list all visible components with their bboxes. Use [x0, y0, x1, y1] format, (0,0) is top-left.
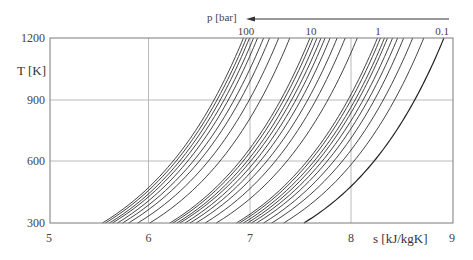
y-axis-title: T [K] [17, 63, 46, 78]
x-tick-6: 6 [146, 231, 152, 245]
isobar-curve [205, 38, 345, 223]
isobar-curve [180, 38, 321, 223]
x-tick-9: 9 [449, 231, 455, 245]
pressure-label-10: 10 [306, 25, 318, 37]
isobar-curve [243, 38, 384, 223]
y-tick-900: 900 [27, 93, 45, 107]
pressure-direction-arrow-icon [246, 17, 449, 22]
isobar-curve [150, 38, 290, 223]
x-tick-7: 7 [247, 231, 253, 245]
pressure-label-0-1: 0.1 [435, 25, 449, 37]
isobar-curve [252, 38, 393, 223]
y-tick-1200: 1200 [21, 31, 45, 45]
x-tick-8: 8 [348, 231, 354, 245]
isobar-curve [112, 38, 253, 223]
ts-diagram: 1200 900 600 300 T [K] 5 6 7 8 9 s [kJ/k… [0, 0, 473, 260]
isobar-curve [109, 38, 249, 223]
isobar-curve [177, 38, 317, 223]
isobar-curves [102, 38, 444, 223]
y-tick-300: 300 [27, 216, 45, 230]
isobar-curve [247, 38, 387, 223]
pressure-label-100: 100 [238, 25, 255, 37]
x-tick-5: 5 [46, 231, 52, 245]
x-axis-title: s [kJ/kgK] [373, 231, 428, 246]
pressure-title: p [bar] [207, 11, 237, 23]
y-tick-600: 600 [27, 154, 45, 168]
pressure-label-1: 1 [375, 25, 381, 37]
